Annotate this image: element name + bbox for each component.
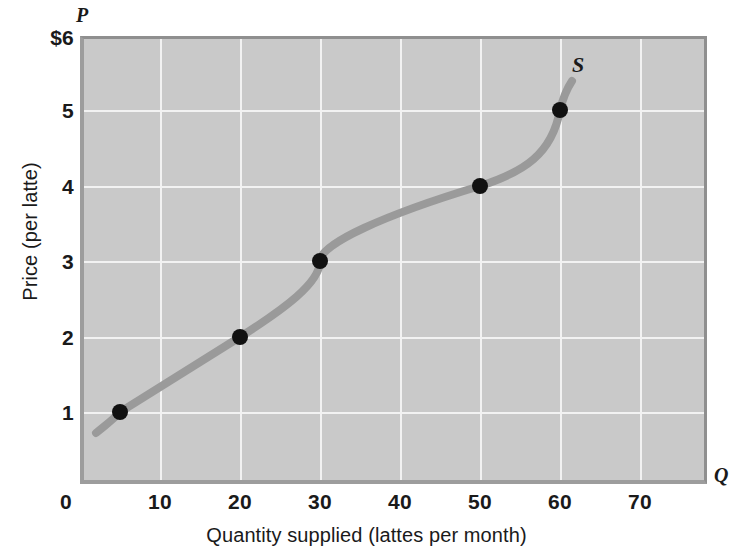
x-tick-20: 20 — [210, 490, 270, 514]
data-point-q20-p2 — [232, 329, 248, 345]
data-point-q60-p5 — [552, 102, 568, 118]
x-tick-70: 70 — [610, 490, 670, 514]
curve-label-s: S — [572, 52, 584, 78]
x-tick-40: 40 — [370, 490, 430, 514]
supply-curve-chart: P Q $6 5 4 3 2 1 Price (per latte) — [0, 0, 733, 557]
y-tick-1: 1 — [28, 402, 74, 423]
x-axis-title: Quantity supplied (lattes per month) — [0, 524, 733, 547]
x-tick-10: 10 — [130, 490, 190, 514]
y-tick-6: $6 — [28, 27, 74, 48]
y-axis-title: Price (per latte) — [19, 102, 42, 362]
plot-area — [80, 36, 707, 484]
plot-inner — [84, 39, 704, 480]
data-point-q5-p1 — [112, 404, 128, 420]
x-tick-0: 0 — [36, 490, 96, 514]
data-point-q35-p3 — [312, 253, 328, 269]
x-tick-60: 60 — [530, 490, 590, 514]
data-point-q50-p4 — [472, 178, 488, 194]
x-tick-30: 30 — [290, 490, 350, 514]
y-axis-symbol: P — [76, 4, 88, 27]
x-axis-symbol: Q — [714, 464, 728, 487]
x-tick-50: 50 — [450, 490, 510, 514]
supply-curve-svg — [84, 39, 704, 480]
supply-curve-path — [96, 81, 572, 433]
